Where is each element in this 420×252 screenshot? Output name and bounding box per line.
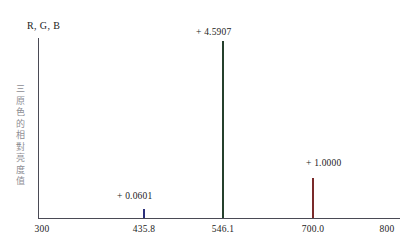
chart-title: R, G, B: [27, 20, 60, 31]
spike-red-700-0: [312, 178, 314, 218]
x-tick-label-435-8: 435.8: [133, 224, 155, 234]
x-tick-label-800: 800: [380, 224, 395, 234]
y-axis-line: [38, 38, 39, 219]
x-tick-label-300: 300: [35, 224, 50, 234]
x-tick-label-546-1: 546.1: [212, 224, 234, 234]
x-axis-line: [38, 218, 400, 219]
data-label-red: + 1.0000: [306, 158, 341, 168]
data-label-green: + 4.5907: [196, 27, 231, 37]
spectral-chart-screenshot: + 0.0601 + 4.5907 + 1.0000 R, G, B 三原色的相…: [0, 0, 420, 252]
plot-area: + 0.0601 + 4.5907 + 1.0000 R, G, B 三原色的相…: [0, 0, 420, 252]
spike-blue-435-8: [143, 209, 145, 218]
spike-green-546-1: [222, 41, 224, 218]
y-axis-label: 三原色的相對亮度值: [13, 84, 27, 188]
x-tick-label-700-0: 700.0: [302, 224, 324, 234]
data-label-blue: + 0.0601: [117, 191, 152, 201]
